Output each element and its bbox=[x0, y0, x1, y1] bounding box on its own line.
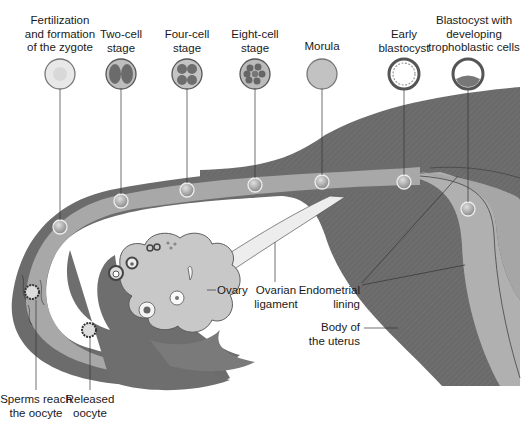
label-morula: Morula bbox=[287, 40, 357, 54]
label-blastocyst-trophoblast: Blastocyst with developing trophoblastic… bbox=[418, 14, 530, 55]
label-endometrial-lining: Endometrial lining bbox=[290, 284, 360, 311]
diagram: Fertilization and formation of the zygot… bbox=[0, 0, 530, 427]
label-eight-cell: Eight-cell stage bbox=[220, 28, 290, 55]
two-cell-icon bbox=[106, 59, 136, 89]
morula-icon bbox=[307, 59, 337, 89]
label-two-cell: Two-cell stage bbox=[86, 28, 156, 55]
released-oocyte bbox=[82, 323, 96, 337]
blastocyst-trophoblast-icon bbox=[453, 59, 483, 89]
stage-icons bbox=[45, 59, 483, 89]
uterus-body bbox=[200, 87, 520, 386]
eight-cell-icon bbox=[240, 59, 270, 89]
label-four-cell: Four-cell stage bbox=[152, 28, 222, 55]
four-cell-icon bbox=[172, 59, 202, 89]
label-ovary: Ovary bbox=[217, 284, 248, 298]
label-body-of-uterus: Body of the uterus bbox=[300, 321, 360, 348]
zygote-icon bbox=[45, 59, 75, 89]
label-released-oocyte: Released oocyte bbox=[64, 393, 116, 420]
label-sperms-reach: Sperms reach the oocyte bbox=[0, 393, 72, 420]
anatomy-illustration bbox=[0, 0, 530, 427]
early-blastocyst-icon bbox=[389, 59, 419, 89]
